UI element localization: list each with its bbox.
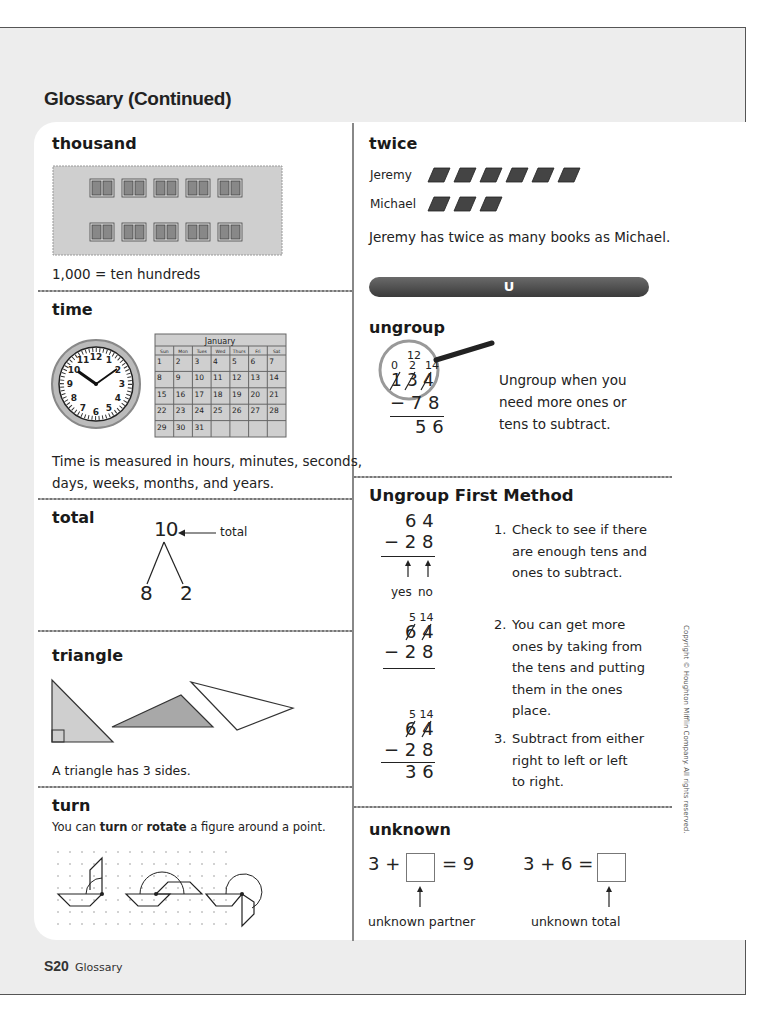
term-thousand: thousand <box>52 134 137 153</box>
calendar-date: 30 <box>176 423 186 432</box>
svg-text:1: 1 <box>106 355 112 365</box>
number-bond-lines <box>140 540 200 586</box>
page-title: Glossary (Continued) <box>44 88 231 110</box>
footer-section: Glossary <box>75 961 123 974</box>
rotation-dot-grid-icon <box>56 850 256 930</box>
calendar-date: 13 <box>251 373 261 382</box>
calendar-date: 28 <box>269 406 279 415</box>
calendar-date: 20 <box>251 390 261 399</box>
calendar-date: 17 <box>194 390 204 399</box>
ungroup-caption-line1: Ungroup when you <box>499 369 627 391</box>
up-arrow-icon <box>415 886 425 908</box>
calendar-day-header: Thurs <box>232 349 246 354</box>
unknown-partner-label: unknown partner <box>368 911 475 933</box>
calendar-date: 29 <box>157 423 167 432</box>
unknown-total-box <box>597 853 626 882</box>
term-twice: twice <box>369 134 417 153</box>
section-divider <box>354 476 672 478</box>
calendar-icon: January SunMonTuesWedThursFriSat 1234567… <box>155 334 287 438</box>
svg-text:12: 12 <box>90 352 103 362</box>
calendar-date: 19 <box>232 390 242 399</box>
calendar-day-header: Tues <box>196 349 208 354</box>
svg-text:11: 11 <box>77 355 90 365</box>
term-triangle: triangle <box>52 646 123 665</box>
arrow-left-icon <box>178 528 218 538</box>
copyright-notice: Copyright © Houghton Mifflin Company. Al… <box>680 625 692 835</box>
calendar-date: 31 <box>194 423 204 432</box>
column-divider <box>352 123 354 941</box>
svg-text:10: 10 <box>68 365 81 375</box>
svg-text:3: 3 <box>119 379 125 389</box>
term-ungroup: ungroup <box>369 318 445 337</box>
method-ex1-sub: − 2 8 <box>384 532 433 552</box>
unknown-total-label: unknown total <box>531 911 620 933</box>
term-total: total <box>52 508 95 527</box>
triangle-caption: A triangle has 3 sides. <box>52 760 191 782</box>
calendar-date: 10 <box>194 373 204 382</box>
unknown-eq2-left: 3 + 6 = <box>523 853 593 875</box>
method-step-2: 2. You can get moreones by taking fromth… <box>494 614 645 722</box>
twice-name-michael: Michael <box>370 193 416 215</box>
unknown-eq1-right: = 9 <box>442 853 474 875</box>
method-ex1-line <box>381 556 435 557</box>
calendar-day-header: Fri <box>255 349 260 354</box>
calendar-date: 24 <box>194 406 204 415</box>
ungroup-result: 5 6 <box>415 416 444 438</box>
strike-marks <box>403 622 437 642</box>
calendar-date: 18 <box>213 390 223 399</box>
method-ex2-sub: − 2 8 <box>384 642 433 662</box>
letter-section-bar: U <box>369 277 649 297</box>
calendar-date: 2 <box>176 357 181 366</box>
calendar-date: 27 <box>251 406 261 415</box>
calendar-date: 26 <box>232 406 242 415</box>
total-part-1: 8 <box>140 582 153 604</box>
term-ungroup-first-method: Ungroup First Method <box>369 486 574 505</box>
calendar-date: 11 <box>213 373 223 382</box>
calendar-date: 5 <box>232 357 237 366</box>
triangles-icon <box>50 678 300 748</box>
svg-text:5: 5 <box>106 403 112 413</box>
calendar-date: 9 <box>176 373 181 382</box>
method-ex1-label-yes: yes <box>391 581 412 603</box>
turn-caption: You can turn or rotate a figure around a… <box>52 816 326 838</box>
calendar-date: 15 <box>157 390 167 399</box>
strike-marks <box>388 370 438 392</box>
calendar-date: 25 <box>213 406 223 415</box>
calendar-date: 4 <box>213 357 218 366</box>
time-caption-line2: days, weeks, months, and years. <box>52 472 274 494</box>
method-ex1-label-no: no <box>418 581 433 603</box>
ungroup-caption-line2: need more ones or <box>499 391 627 413</box>
up-arrow-icon <box>604 886 614 908</box>
total-top-number: 10 <box>154 518 177 540</box>
up-arrows-icon <box>402 560 436 578</box>
page-footer: S20Glossary <box>44 958 122 974</box>
calendar-date: 7 <box>269 357 274 366</box>
method-step-1: 1. Check to see if thereare enough tens … <box>494 519 647 584</box>
calendar-day-header: Mon <box>178 349 188 354</box>
term-turn: turn <box>52 796 90 815</box>
calendar-date: 16 <box>176 390 186 399</box>
method-ex1-top: 6 4 <box>405 511 434 531</box>
calendar-day-header: Sun <box>160 349 169 354</box>
calendar-date: 1 <box>157 357 162 366</box>
ungroup-caption-line3: tens to subtract. <box>499 413 611 435</box>
books-row-michael-icon <box>424 193 504 215</box>
svg-text:6: 6 <box>93 407 99 417</box>
ungroup-subtrahend: − 7 8 <box>390 393 439 413</box>
twice-name-jeremy: Jeremy <box>370 164 412 186</box>
svg-text:9: 9 <box>67 379 73 389</box>
method-ex3-result: 3 6 <box>405 762 434 782</box>
term-time: time <box>52 300 93 319</box>
calendar-date: 12 <box>232 373 242 382</box>
svg-text:January: January <box>204 337 236 346</box>
svg-text:8: 8 <box>71 393 77 403</box>
page-number: S20 <box>44 958 69 974</box>
section-divider <box>38 786 352 788</box>
calendar-date: 8 <box>157 373 162 382</box>
svg-text:7: 7 <box>80 403 86 413</box>
calendar-day-header: Sat <box>273 349 281 354</box>
calendar-date: 14 <box>269 373 279 382</box>
section-divider <box>38 498 352 500</box>
calendar-date: 21 <box>269 390 279 399</box>
method-ex3-sub: − 2 8 <box>384 740 433 760</box>
